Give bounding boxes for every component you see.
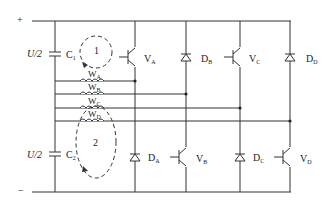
capacitor-c1-label: C1 [66, 50, 76, 61]
winding-b-label: WB [88, 83, 101, 93]
diode-db-label: DB [201, 54, 212, 65]
diode-dc-label: DC [253, 153, 264, 164]
diode-da-label: DA [148, 153, 160, 164]
diode-dd-label: DD [306, 54, 318, 65]
winding-a-label: WA [88, 70, 101, 80]
transistor-vc-label: VC [249, 54, 260, 65]
transistor-va-icon [119, 47, 139, 67]
winding-c-label: WC [88, 97, 101, 107]
transistor-vc-icon [224, 47, 244, 67]
diode-dd-icon [285, 54, 295, 61]
transistor-vb-label: VB [196, 154, 207, 165]
upper-voltage-label: U/2 [27, 49, 42, 59]
negative-terminal-label: − [18, 186, 24, 196]
diode-db-icon [181, 54, 191, 61]
capacitor-c2-icon [49, 152, 61, 156]
positive-terminal-label: + [17, 15, 23, 25]
lower-voltage-label: U/2 [27, 150, 42, 160]
junction-dot-icon [133, 79, 291, 122]
transistor-va-label: VA [144, 54, 156, 65]
winding-d-label: WD [88, 110, 101, 120]
capacitor-c1-icon [49, 52, 61, 56]
circuit-schematic [0, 0, 329, 208]
loop-1-label: 1 [94, 46, 99, 56]
capacitor-c2-label: C2 [66, 150, 76, 161]
loop-2-label: 2 [93, 138, 98, 148]
diode-da-icon [130, 154, 140, 161]
diode-dc-icon [235, 154, 245, 161]
transistor-vb-icon [170, 147, 190, 167]
transistor-vd-label: VD [300, 154, 312, 165]
transistor-vd-icon [274, 147, 294, 167]
